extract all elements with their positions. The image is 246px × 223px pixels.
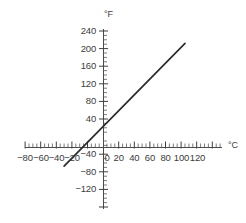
x-tick-label-0: 0 [101,153,113,163]
x-axis-title: °C [228,140,238,150]
x-axis-minor-ticks [29,144,220,148]
chart-plot-area [0,0,246,223]
y-tick-label-minus-120: −120 [63,184,96,194]
y-axis-title: °F [104,9,113,19]
y-tick-label-160: 160 [67,61,96,71]
x-tick-label-80: 80 [160,153,172,163]
y-tick-label-minus-80: −80 [67,167,96,177]
y-tick-label-200: 200 [67,44,96,54]
x-tick-label-120: 120 [189,153,206,163]
x-tick-label-20: 20 [113,153,125,163]
x-tick-label-100: 100 [173,153,190,163]
y-tick-label-40: 40 [67,114,96,124]
y-tick-label-240: 240 [67,26,96,36]
x-tick-label-40: 40 [128,153,140,163]
x-tick-label-60: 60 [144,153,156,163]
y-tick-label-120: 120 [67,79,96,89]
y-tick-label-80: 80 [67,96,96,106]
conversion-chart: °F °C 240 200 160 120 80 40 −40 −80 −120… [0,0,246,223]
x-tick-label-minus-20: −20 [58,153,86,163]
